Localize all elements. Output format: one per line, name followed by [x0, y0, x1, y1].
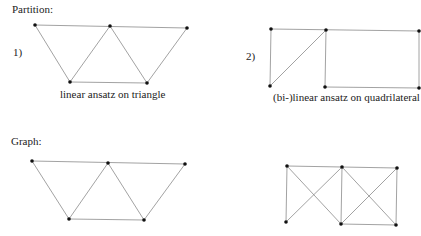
graph-quadrilateral	[286, 166, 397, 225]
diagram-canvas	[0, 0, 421, 236]
graph-triangles	[32, 161, 185, 220]
partition-quadrilateral	[270, 29, 419, 88]
partition-triangles	[35, 25, 187, 83]
nodes	[30, 23, 421, 227]
